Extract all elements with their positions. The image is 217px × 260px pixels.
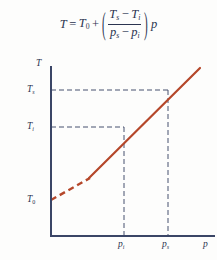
x-axis-label: p bbox=[203, 240, 208, 250]
figure-container: T = T0 + ( Ts−Ti ps−pi ) p bbox=[0, 0, 217, 260]
fraction-denominator: ps−pi bbox=[109, 26, 141, 41]
denominator-second-subscript: i bbox=[138, 31, 140, 40]
x-tick-label-pi: pi bbox=[118, 240, 124, 250]
y-tick-label-Ti: Ti bbox=[27, 122, 34, 132]
y-axis-label-text: T bbox=[36, 58, 41, 68]
equation-trailing-variable: p bbox=[148, 18, 157, 31]
equation-formula: T = T0 + ( Ts−Ti ps−pi ) p bbox=[0, 8, 217, 40]
plus-sign: + bbox=[90, 18, 102, 31]
numerator-second-subscript: i bbox=[138, 13, 140, 22]
y-tick-T0-subscript: 0 bbox=[32, 199, 35, 205]
y-tick-Ts-subscript: s bbox=[32, 89, 34, 95]
plot-area bbox=[0, 46, 217, 260]
y-tick-label-Ts: Ts bbox=[27, 85, 35, 95]
paren-close: ) bbox=[143, 8, 148, 39]
y-axis-label: T bbox=[36, 59, 41, 69]
x-tick-pi-subscript: i bbox=[123, 244, 125, 250]
paren-open: ( bbox=[102, 8, 107, 39]
plot-svg bbox=[0, 46, 217, 260]
fraction-numerator: Ts−Ti bbox=[108, 8, 141, 23]
x-axis-label-text: p bbox=[203, 239, 208, 249]
y-tick-Ti-subscript: i bbox=[32, 126, 34, 132]
denominator-minus: − bbox=[119, 25, 131, 39]
data-line-measured bbox=[89, 68, 200, 178]
data-line-extrapolated bbox=[51, 178, 90, 200]
x-tick-label-ps: ps bbox=[162, 240, 169, 250]
equals-sign: = bbox=[67, 18, 79, 31]
y-tick-label-T0: T0 bbox=[27, 195, 35, 205]
slope-fraction: Ts−Ti ps−pi bbox=[106, 8, 143, 40]
x-tick-ps-subscript: s bbox=[167, 244, 169, 250]
numerator-minus: − bbox=[119, 7, 131, 21]
intercept-symbol: T bbox=[79, 16, 86, 30]
intercept-term: T0 bbox=[79, 17, 90, 31]
equation-expression: T = T0 + ( Ts−Ti ps−pi ) p bbox=[60, 8, 158, 40]
equation-lhs: T bbox=[60, 18, 67, 31]
